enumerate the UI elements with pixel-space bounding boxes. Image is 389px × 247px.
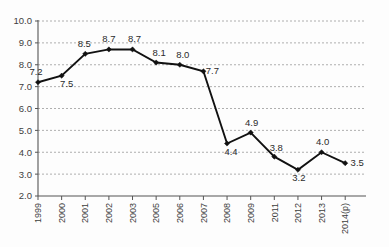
data-point-markers	[35, 47, 347, 173]
data-point-label: 7.2	[29, 66, 42, 77]
data-point-label: 3.5	[351, 157, 364, 168]
data-point-label: 8.1	[153, 47, 166, 58]
y-tick-label: 9.0	[19, 37, 32, 48]
x-tick-label: 2013	[317, 203, 327, 223]
x-tick-label: 2001	[80, 203, 90, 223]
data-point-marker	[35, 80, 40, 85]
y-tick-label: 5.0	[19, 125, 32, 136]
y-tick-label: 7.0	[19, 81, 32, 92]
x-tick-label: 2008	[222, 203, 232, 223]
data-point-label: 8.5	[78, 38, 91, 49]
data-point-label: 3.8	[270, 142, 283, 153]
x-tick-label: 2012	[293, 203, 303, 223]
x-tick-label: 2007	[199, 203, 209, 223]
data-point-marker	[177, 62, 182, 67]
x-axis-tick-labels: 1999200020012002200320052006200720082009…	[33, 203, 350, 234]
data-point-label: 8.0	[176, 49, 189, 60]
chart-canvas: 2.03.04.05.06.07.08.09.010.0 19992000200…	[0, 0, 389, 247]
data-point-label: 7.7	[206, 65, 219, 76]
x-tick-label: 1999	[33, 203, 43, 223]
y-tick-label: 3.0	[19, 169, 32, 180]
y-axis-tick-labels: 2.03.04.05.06.07.08.09.010.0	[14, 15, 33, 201]
x-tick-label: 2014(p)	[340, 203, 350, 234]
y-tick-label: 10.0	[14, 15, 33, 26]
y-tick-label: 6.0	[19, 103, 32, 114]
y-tick-label: 2.0	[19, 190, 32, 201]
data-point-label: 8.7	[128, 33, 141, 44]
data-point-marker	[106, 47, 111, 52]
line-chart-figure: 2.03.04.05.06.07.08.09.010.0 19992000200…	[0, 0, 389, 247]
data-point-label: 4.9	[245, 117, 258, 128]
x-tick-label: 2000	[57, 203, 67, 223]
data-point-label: 8.7	[102, 33, 115, 44]
x-tick-label: 2011	[270, 203, 280, 222]
x-tick-label: 2006	[175, 203, 185, 223]
x-tick-label: 2003	[128, 203, 138, 223]
data-series-line	[38, 49, 345, 169]
x-tick-label: 2002	[104, 203, 114, 223]
data-point-label: 4.0	[316, 136, 329, 147]
x-axis-tick-marks	[38, 196, 345, 200]
data-point-label: 4.4	[224, 146, 237, 157]
data-point-labels: 7.27.58.58.78.78.18.07.74.44.93.83.24.03…	[29, 33, 363, 182]
x-tick-label: 2009	[246, 203, 256, 223]
x-tick-label: 2005	[151, 203, 161, 223]
data-point-label: 7.5	[60, 78, 73, 89]
data-point-label: 3.2	[292, 172, 305, 183]
series-polyline	[38, 49, 345, 169]
y-tick-label: 4.0	[19, 147, 32, 158]
